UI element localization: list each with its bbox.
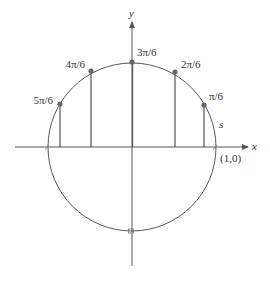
x-axis-label: x xyxy=(251,140,257,152)
point-5pi-6 xyxy=(57,101,62,106)
arc-length-label: s xyxy=(219,118,223,130)
unit-circle-diagram: x y π/6 2π/6 3π/6 4π/6 5π/6 s (1,0) xyxy=(0,0,270,282)
label-5pi-6: 5π/6 xyxy=(33,94,53,106)
label-pi-6: π/6 xyxy=(209,90,224,102)
point-pi-6 xyxy=(201,102,206,107)
start-point-label: (1,0) xyxy=(220,152,241,165)
label-3pi-6: 3π/6 xyxy=(137,46,157,58)
projection-lines xyxy=(60,63,204,147)
point-3pi-6 xyxy=(129,59,134,64)
label-2pi-6: 2π/6 xyxy=(181,58,201,70)
label-4pi-6: 4π/6 xyxy=(65,58,85,70)
y-axis-label: y xyxy=(128,7,134,19)
point-2pi-6 xyxy=(172,69,177,74)
point-4pi-6 xyxy=(88,68,93,73)
